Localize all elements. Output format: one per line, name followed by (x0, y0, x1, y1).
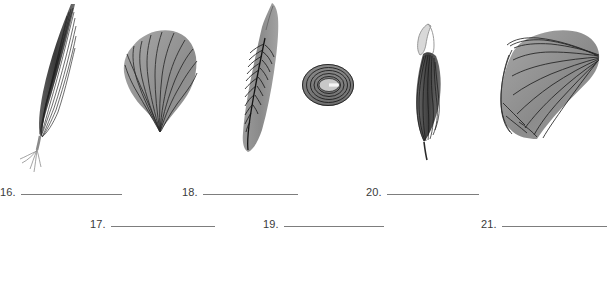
answer-row-19: 19. (263, 218, 384, 230)
specimen-6-broad-shell-fan (501, 30, 599, 139)
answer-number-17: 17. (90, 218, 106, 230)
answer-blank-21[interactable] (502, 226, 607, 227)
answer-blank-19[interactable] (284, 226, 384, 227)
answer-number-18: 18. (182, 186, 198, 198)
answer-row-21: 21. (481, 218, 607, 230)
answer-blank-16[interactable] (21, 194, 122, 195)
answer-blank-20[interactable] (387, 194, 479, 195)
answer-number-16: 16. (0, 186, 16, 198)
specimen-identification-plate (0, 0, 607, 180)
specimen-3-pinnate-veined-leaf (243, 3, 279, 152)
specimen-2-fan-shaped-ribbed (124, 30, 197, 132)
worksheet-page: 16. 17. 18. 19. 20. 21. (0, 0, 607, 281)
answer-row-18: 18. (182, 186, 298, 198)
answer-number-19: 19. (263, 218, 279, 230)
answer-row-20: 20. (366, 186, 479, 198)
answer-row-16: 16. (0, 186, 122, 198)
answer-row-17: 17. (90, 218, 215, 230)
answer-number-20: 20. (366, 186, 382, 198)
specimen-4-concentric-oval-ring (302, 64, 354, 106)
answer-number-21: 21. (481, 218, 497, 230)
specimen-1-elongated-striated-with-rootlets (20, 4, 76, 172)
answer-blank-18[interactable] (203, 194, 298, 195)
specimen-5-looped-stalk-striated (416, 24, 441, 160)
rootlet-cluster (20, 150, 41, 172)
answer-blank-17[interactable] (111, 226, 215, 227)
